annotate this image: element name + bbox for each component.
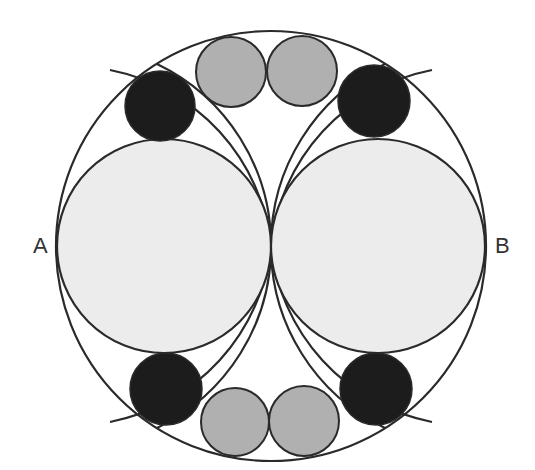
gray-circle-bottom-left xyxy=(201,388,269,456)
large-circle-right xyxy=(271,139,485,353)
black-circle-top-left xyxy=(125,71,195,141)
arbelos-diagram: A B xyxy=(0,0,535,470)
black-circle-bottom-right xyxy=(340,353,412,425)
gray-circle-top-left xyxy=(196,37,266,107)
label-a: A xyxy=(33,233,48,258)
gray-circle-top-right xyxy=(267,36,337,106)
label-b: B xyxy=(495,233,510,258)
large-circle-left xyxy=(57,139,271,353)
black-circle-top-right xyxy=(338,65,410,137)
black-circle-bottom-left xyxy=(130,353,202,425)
gray-circle-bottom-right xyxy=(269,386,339,456)
